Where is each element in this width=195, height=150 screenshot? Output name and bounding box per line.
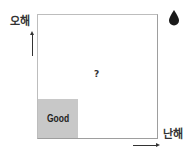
x-axis-arrow-icon — [133, 145, 157, 146]
x-axis-label: 난해 — [163, 125, 182, 141]
good-label: Good — [47, 113, 69, 124]
unknown-region-label: ? — [94, 69, 99, 79]
water-drop-icon — [168, 10, 180, 26]
good-quadrant: Good — [38, 99, 78, 138]
y-axis-arrow-icon — [32, 34, 33, 56]
y-axis-label: 오해 — [10, 12, 29, 28]
